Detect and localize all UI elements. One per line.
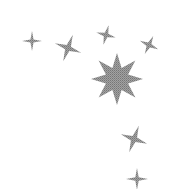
- star-left-icon: [55, 35, 81, 61]
- star-top-middle-icon: [96, 25, 115, 44]
- star-bottom-icon: [126, 168, 148, 189]
- star-lower-right-icon: [121, 126, 147, 152]
- star-small-left-icon: [22, 31, 42, 51]
- star-cluster-image: [0, 0, 177, 189]
- stars-graphic: [0, 0, 177, 189]
- star-top-right-icon: [140, 36, 158, 54]
- star-large-center-icon: [91, 53, 143, 105]
